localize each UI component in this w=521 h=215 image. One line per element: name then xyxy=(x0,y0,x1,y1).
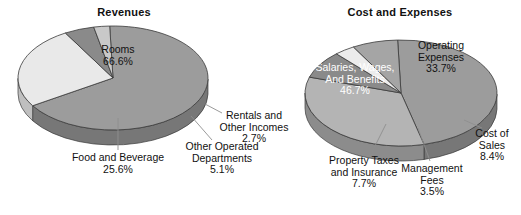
slice-label-property-taxes-and-insurance: Property Taxesand Insurance7.7% xyxy=(274,155,454,190)
slice-name-line: Property Taxes xyxy=(274,155,454,167)
slice-name-line: Cost of xyxy=(402,128,521,140)
slice-value: 33.7% xyxy=(351,63,521,75)
chart-title-cost-and-expenses-pie: Cost and Expenses xyxy=(290,6,510,18)
slice-name-line: Operating xyxy=(351,40,521,52)
pie-charts-figure: RevenuesRooms66.6%Food and Beverage25.6%… xyxy=(0,0,521,215)
slice-value: 46.7% xyxy=(265,85,445,97)
slice-value: 7.7% xyxy=(274,178,454,190)
slice-label-operating-expenses: OperatingExpenses33.7% xyxy=(351,40,521,75)
